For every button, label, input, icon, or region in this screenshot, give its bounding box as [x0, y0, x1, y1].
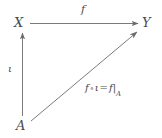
composite-subscript-a: A — [116, 90, 121, 98]
composite-equals: = — [99, 82, 109, 93]
object-label-x: X — [14, 16, 23, 29]
arrow-label-f: f — [81, 4, 85, 15]
object-label-a: A — [16, 119, 25, 132]
arrow-a-to-y — [31, 32, 137, 121]
object-label-y: Y — [142, 16, 151, 29]
arrow-label-composite: f∘ι=f|A — [85, 83, 121, 96]
commutative-diagram: X Y A f ι f∘ι=f|A — [0, 0, 162, 138]
composite-iota: ι — [95, 82, 99, 93]
arrow-label-iota: ι — [8, 64, 12, 74]
